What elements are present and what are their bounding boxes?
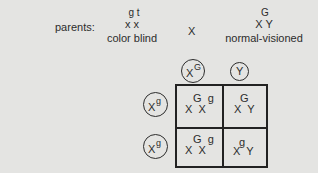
gamete-left-1-sup: g (156, 97, 161, 106)
gamete-left-2-sup: g (156, 139, 161, 148)
parents-label: parents: (55, 22, 95, 33)
gamete-left-1-circle: X g (143, 92, 168, 117)
cell-4: g X Y (224, 129, 268, 168)
punnett-square: G g X X G X Y G g X X g X Y (175, 84, 268, 168)
gamete-top-2-base: Y (236, 66, 243, 77)
mother-genotype: g t x x color blind (100, 8, 164, 44)
cell-3: G g X X (177, 129, 222, 168)
father-allele: G (224, 8, 304, 18)
gamete-left-1-base: X (148, 102, 155, 113)
gamete-top-y-circle: Y (230, 62, 249, 81)
father-chromosomes: X Y (224, 19, 304, 30)
cell-2: G X Y (224, 86, 268, 127)
gamete-top-xg-circle: X G (181, 59, 205, 83)
cell-1: G g X X (177, 86, 222, 127)
gamete-top-1-base: X (186, 68, 193, 79)
father-phenotype: normal-visioned (224, 33, 304, 44)
gamete-left-2-base: X (148, 144, 155, 155)
gamete-left-2-circle: X g (143, 134, 168, 159)
cell-3-base: X X (185, 145, 206, 156)
cross-symbol: X (188, 26, 195, 37)
mother-chromosomes: x x (100, 19, 164, 30)
mother-phenotype: color blind (100, 33, 164, 44)
father-genotype: G X Y normal-visioned (224, 8, 304, 44)
mother-alleles: g t (100, 8, 164, 18)
cell-4-base: X Y (233, 146, 254, 157)
cell-1-base: X X (185, 104, 206, 115)
cell-2-base: X Y (234, 104, 255, 115)
gamete-top-1-sup: G (194, 63, 201, 72)
